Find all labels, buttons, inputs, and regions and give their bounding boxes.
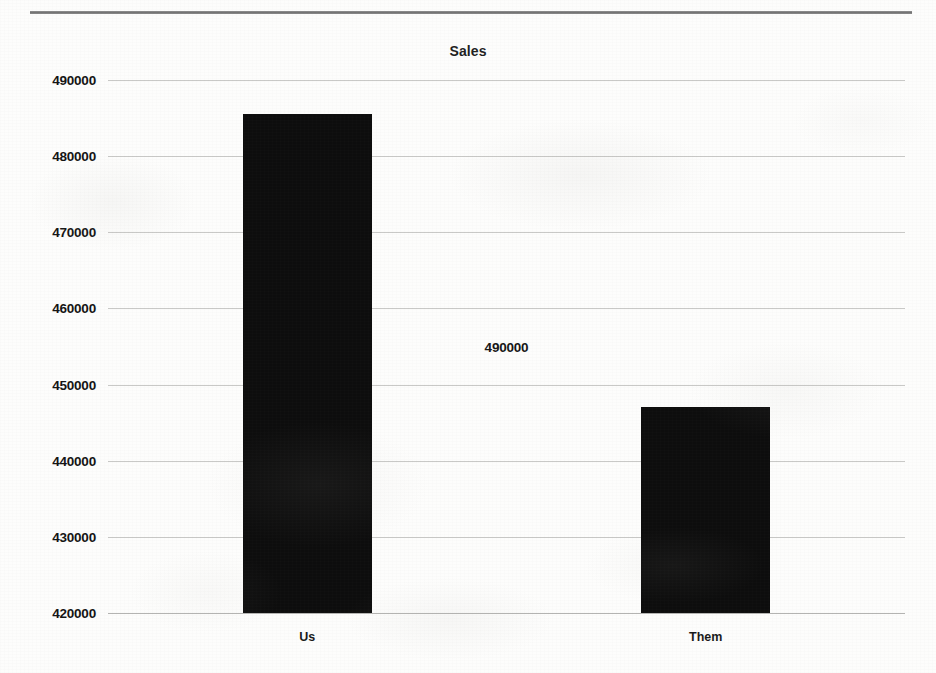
y-axis-tick-label: 450000 bbox=[52, 377, 96, 392]
y-axis-tick-label: 460000 bbox=[52, 301, 96, 316]
gridline bbox=[108, 613, 905, 614]
gridline bbox=[108, 308, 905, 309]
y-axis-tick-label: 440000 bbox=[52, 453, 96, 468]
gridline bbox=[108, 461, 905, 462]
chart-title: Sales bbox=[0, 43, 936, 59]
x-axis-tick-label: Us bbox=[299, 630, 315, 644]
y-axis-tick-label: 430000 bbox=[52, 529, 96, 544]
y-axis-tick-label: 480000 bbox=[52, 149, 96, 164]
y-axis-tick-label: 470000 bbox=[52, 225, 96, 240]
y-axis-tick-label: 490000 bbox=[52, 73, 96, 88]
bar-them[interactable] bbox=[641, 407, 770, 613]
bar-us[interactable] bbox=[243, 114, 372, 613]
gridline bbox=[108, 232, 905, 233]
y-axis-tick-label: 420000 bbox=[52, 606, 96, 621]
x-axis-tick-label: Them bbox=[689, 630, 722, 644]
top-divider-rule bbox=[30, 11, 912, 14]
gridline bbox=[108, 385, 905, 386]
gridline bbox=[108, 537, 905, 538]
gridline bbox=[108, 156, 905, 157]
gridline bbox=[108, 80, 905, 81]
plot-area: 4900004800004700004600004500004400004300… bbox=[108, 80, 905, 613]
chart-page: Sales 4900004800004700004600004500004400… bbox=[0, 0, 936, 673]
chart-annotation-label: 490000 bbox=[485, 339, 529, 354]
